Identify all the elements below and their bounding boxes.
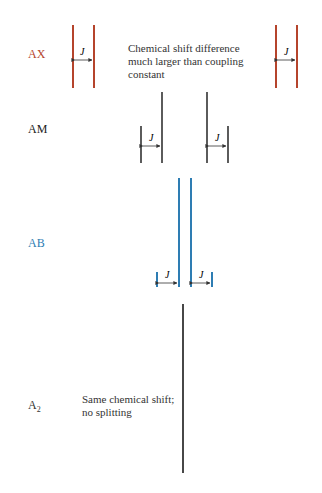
coupling-label: J [165,269,170,280]
coupling-label: J [80,46,85,57]
ab-spectrum: J J [157,178,212,287]
coupling-label: J [284,46,289,57]
coupling-label: J [199,269,204,280]
coupling-label: J [215,132,220,143]
coupling-label: J [149,132,154,143]
ax-right-doublet: J [276,25,297,88]
am-spectrum: J J [141,92,228,163]
spectra-diagram: J J J J J J [0,0,322,493]
ax-left-doublet: J [73,25,94,88]
